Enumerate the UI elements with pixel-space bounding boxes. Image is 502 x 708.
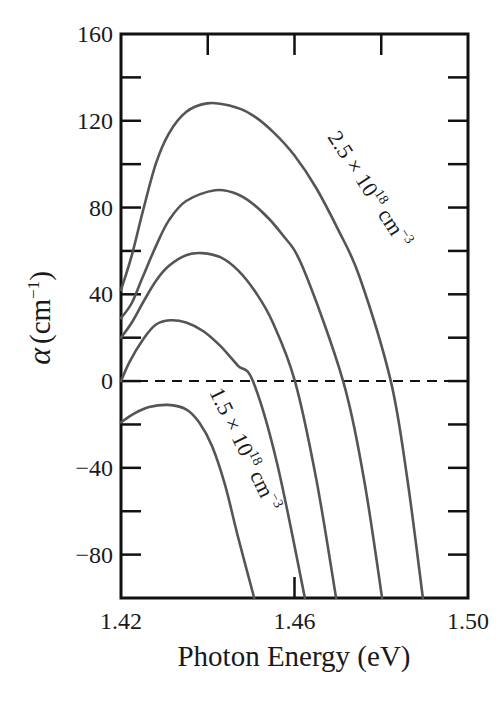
y-tick-label: 160 (77, 21, 113, 47)
absorption-curve-4 (121, 320, 305, 598)
y-axis-title: α(cm−1) (21, 271, 57, 365)
y-tick-label: −40 (75, 455, 113, 481)
y-tick-label: −80 (75, 542, 113, 568)
y-tick-label: 80 (89, 195, 113, 221)
axis-ticks (121, 34, 468, 598)
x-tick-label: 1.50 (447, 608, 489, 634)
annotation-high-density: 2.5 × 1018 cm−3 (323, 126, 418, 253)
y-tick-label: 120 (77, 108, 113, 134)
plot-border (121, 34, 468, 598)
absorption-chart: −80−40040801201601.421.461.50 2.5 × 1018… (0, 0, 502, 708)
absorption-curve-2 (121, 190, 382, 598)
x-tick-label: 1.46 (274, 608, 316, 634)
y-tick-label: 40 (89, 281, 113, 307)
y-tick-label: 0 (101, 368, 113, 394)
x-tick-label: 1.42 (100, 608, 142, 634)
axis-tick-labels: −80−40040801201601.421.461.50 (75, 21, 489, 634)
plot-frame (121, 34, 468, 598)
x-axis-title: Photon Energy (eV) (177, 640, 410, 673)
